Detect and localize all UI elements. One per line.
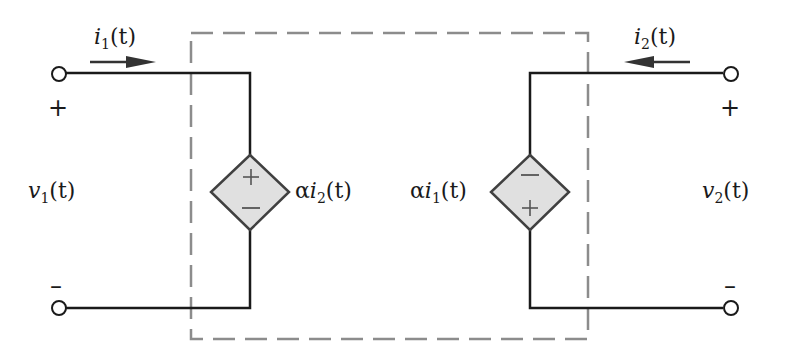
wire-port2-top — [530, 73, 723, 155]
var: i — [425, 178, 432, 203]
var: i — [634, 24, 641, 49]
subscript: 1 — [101, 36, 110, 52]
current-label-i1: i1(t) — [94, 26, 136, 51]
source-label-alpha-i1: αi1(t) — [410, 180, 467, 205]
port2-minus-sign: – — [724, 274, 736, 298]
coefficient: α — [410, 178, 425, 203]
port1-plus-sign: + — [48, 96, 68, 120]
var: i — [94, 24, 101, 49]
terminal-port1-plus — [52, 67, 66, 81]
coefficient: α — [295, 178, 310, 203]
voltage-label-v1: v1(t) — [28, 180, 75, 205]
var: v — [702, 178, 714, 203]
argument: (t) — [110, 24, 136, 49]
argument: (t) — [723, 178, 749, 203]
port1-minus-sign: – — [50, 274, 62, 298]
subscript: 2 — [317, 190, 326, 206]
terminal-port2-minus — [724, 301, 738, 315]
terminal-port1-minus — [52, 301, 66, 315]
wire-port2-bottom — [530, 230, 723, 308]
argument: (t) — [49, 178, 75, 203]
arrow-right-icon — [90, 56, 156, 68]
var: i — [310, 178, 317, 203]
argument: (t) — [650, 24, 676, 49]
port2-plus-sign: + — [720, 96, 740, 120]
wire-port1-top — [66, 73, 250, 155]
var: v — [28, 178, 40, 203]
subscript: 2 — [641, 36, 650, 52]
voltage-label-v2: v2(t) — [702, 180, 749, 205]
argument: (t) — [441, 178, 467, 203]
arrow-left-icon — [624, 56, 690, 68]
wire-port1-bottom — [66, 230, 250, 308]
circuit-canvas — [0, 0, 789, 360]
subscript: 1 — [432, 190, 441, 206]
current-label-i2: i2(t) — [634, 26, 676, 51]
argument: (t) — [326, 178, 352, 203]
source-label-alpha-i2: αi2(t) — [295, 180, 352, 205]
dependent-source-right — [491, 155, 569, 230]
terminal-port2-plus — [724, 67, 738, 81]
dependent-source-left — [211, 155, 289, 230]
